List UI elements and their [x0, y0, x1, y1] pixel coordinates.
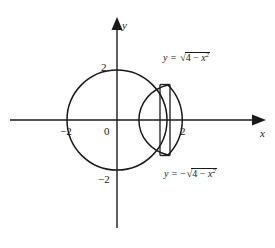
origin-label: 0 — [104, 126, 110, 137]
math-figure: 2 −2 −2 2 0 x y y = √4 − x2 y = −√4 − x2 — [0, 0, 275, 248]
lower-eq-radicand-lead: 4 − — [192, 168, 208, 179]
lower-semicircle-equation: y = −√4 − x2 — [164, 168, 217, 179]
upper-eq-lhs: y = — [163, 52, 179, 63]
x-tick-label-negative-2: −2 — [60, 126, 72, 137]
x-tick-label-2: 2 — [180, 126, 186, 137]
upper-eq-radicand: 4 − x2 — [185, 52, 211, 63]
x-axis-label: x — [260, 128, 265, 139]
y-tick-label-negative-2: −2 — [98, 174, 110, 185]
x-axis-arrowhead — [252, 115, 266, 126]
lower-eq-radical: √4 − x2 — [186, 168, 217, 179]
y-axis-arrowhead — [112, 17, 123, 30]
upper-eq-radicand-lead: 4 − — [186, 52, 202, 63]
upper-eq-exponent: 2 — [206, 51, 209, 58]
upper-eq-radical: √4 − x2 — [179, 52, 210, 63]
y-tick-label-2: 2 — [101, 62, 107, 73]
upper-semicircle-equation: y = √4 − x2 — [163, 52, 210, 63]
lower-eq-radicand: 4 − x2 — [191, 168, 217, 179]
figure-canvas — [0, 0, 275, 248]
lower-eq-lhs: y = — [164, 168, 180, 179]
lower-eq-exponent: 2 — [212, 167, 215, 174]
y-axis-label: y — [122, 20, 127, 31]
